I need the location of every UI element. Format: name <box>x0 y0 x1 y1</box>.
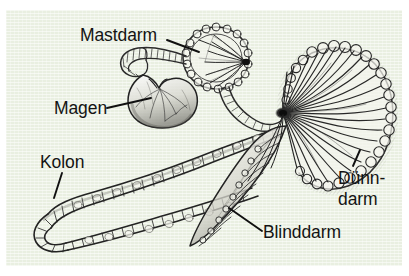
label-magen: Magen <box>54 98 107 118</box>
anatomical-illustration <box>0 0 409 276</box>
figure-root: Mastdarm Magen Kolon Dünn- darm Blinddar… <box>0 0 409 276</box>
label-mastdarm: Mastdarm <box>80 25 157 45</box>
label-duenndarm: Dünn- darm <box>338 168 385 210</box>
label-duenndarm-line2: darm <box>338 189 385 210</box>
label-duenndarm-line1: Dünn- <box>338 168 385 189</box>
label-kolon: Kolon <box>40 152 84 172</box>
leader-blinddarm <box>229 208 262 231</box>
label-blinddarm: Blinddarm <box>263 222 341 242</box>
leader-kolon <box>54 173 62 198</box>
